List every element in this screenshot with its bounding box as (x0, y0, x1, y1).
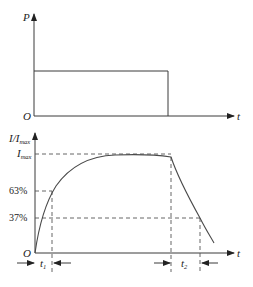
top-y-axis-label: P (22, 11, 30, 23)
t2-label: t2 (181, 257, 188, 270)
top-origin-label: O (23, 110, 31, 122)
diagram-canvas: P t O I/Imax Imax 63% 37% O t t1 t2 (0, 0, 253, 287)
bottom-origin-label: O (23, 247, 31, 259)
top-chart: P t O (22, 11, 241, 122)
bottom-x-axis-label: t (237, 247, 241, 259)
bottom-chart: I/Imax Imax 63% 37% O t t1 t2 (8, 132, 241, 272)
pct37-label: 37% (9, 212, 27, 223)
top-x-axis-label: t (237, 110, 241, 122)
power-pulse-rect (34, 71, 168, 116)
imax-label: Imax (16, 147, 32, 160)
pct63-label: 63% (9, 185, 27, 196)
bottom-y-axis-label: I/Imax (8, 132, 30, 145)
t1-label: t1 (40, 257, 46, 270)
current-response-curve (35, 155, 214, 253)
